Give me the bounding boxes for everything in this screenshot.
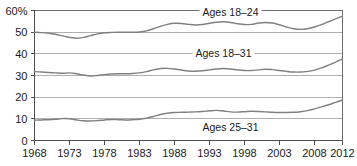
x-tick-label: 2008 <box>302 147 326 159</box>
y-tick-label: 20 <box>15 91 27 103</box>
x-tick-label: 2012 <box>330 147 354 159</box>
x-tick-label: 1988 <box>162 147 186 159</box>
line-chart: 0102030405060% 1968197319781983198819931… <box>0 0 357 166</box>
y-tick-label: 10 <box>15 113 27 125</box>
series-line-ages-25-31 <box>35 100 343 121</box>
x-tick-label: 2003 <box>267 147 291 159</box>
y-tick-label: 30 <box>15 70 27 82</box>
y-tick-label: 0 <box>21 135 27 147</box>
series-line-ages-18-31 <box>35 59 343 76</box>
series-line-ages-18-24 <box>35 16 343 38</box>
x-axis-ticks: 1968197319781983198819931998200320082012 <box>22 141 354 159</box>
x-tick-label: 1978 <box>92 147 116 159</box>
y-axis-ticks: 0102030405060% <box>5 5 34 147</box>
series-label-ages-18-31: Ages 18–31 <box>195 47 251 59</box>
x-tick-label: 1968 <box>22 147 46 159</box>
y-tick-label: 40 <box>15 48 27 60</box>
chart-svg: 0102030405060% 1968197319781983198819931… <box>0 0 357 166</box>
x-tick-label: 1993 <box>197 147 221 159</box>
y-tick-label: 60% <box>5 5 27 17</box>
series-label-ages-18-24: Ages 18–24 <box>202 6 258 18</box>
x-tick-label: 1973 <box>57 147 81 159</box>
y-tick-label: 50 <box>15 26 27 38</box>
x-tick-label: 1983 <box>127 147 151 159</box>
series-label-ages-25-31: Ages 25–31 <box>202 121 258 133</box>
x-tick-label: 1998 <box>232 147 256 159</box>
